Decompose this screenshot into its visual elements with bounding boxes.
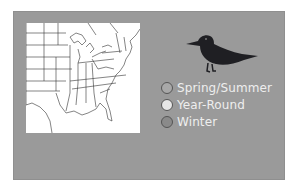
legend-label: Year-Round <box>177 98 245 112</box>
state-outlines <box>26 23 140 133</box>
legend-item-winter: Winter <box>161 113 272 130</box>
us-range-map <box>26 23 140 133</box>
legend-label: Winter <box>177 115 217 129</box>
legend-item-year-round: Year-Round <box>161 96 272 113</box>
range-legend: Spring/Summer Year-Round Winter <box>161 79 272 130</box>
legend-item-spring-summer: Spring/Summer <box>161 79 272 96</box>
bird-silhouette-icon <box>184 28 260 78</box>
swatch-year-round <box>161 99 173 111</box>
swatch-winter <box>161 116 173 128</box>
range-map-card: Spring/Summer Year-Round Winter <box>13 11 285 180</box>
legend-label: Spring/Summer <box>177 81 272 95</box>
swatch-spring-summer <box>161 82 173 94</box>
